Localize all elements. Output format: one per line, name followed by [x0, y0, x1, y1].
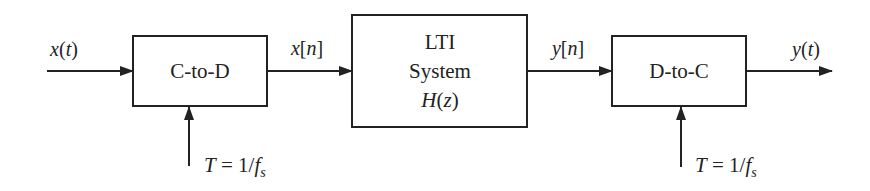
- c-to-d-label: C-to-D: [170, 59, 230, 83]
- input-signal-label: x(t): [49, 38, 78, 61]
- discrete-output-label: y[n]: [550, 37, 584, 60]
- c-to-d-sampling-label: T = 1/fs: [204, 153, 266, 180]
- discrete-input-label: x[n]: [290, 37, 323, 59]
- d-to-c-block: D-to-C: [612, 36, 746, 106]
- c-to-d-block: C-to-D: [133, 36, 267, 106]
- lti-system-block: LTI System H(z): [352, 15, 527, 127]
- d-to-c-sampling-label: T = 1/fs: [695, 153, 757, 180]
- output-signal-label: y(t): [790, 38, 820, 61]
- diagram-canvas: C-to-D LTI System H(z) D-to-C x(t) x[n] …: [0, 0, 870, 191]
- d-to-c-label: D-to-C: [649, 59, 709, 83]
- system-label: System: [409, 59, 471, 83]
- transfer-function-label: H(z): [420, 88, 458, 112]
- lti-label: LTI: [425, 30, 456, 54]
